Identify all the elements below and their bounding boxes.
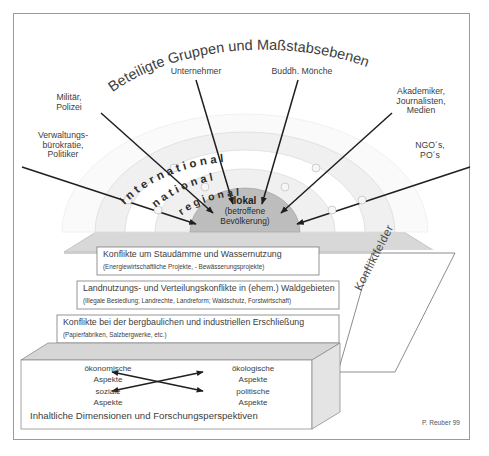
center-label-lokal: lokal	[205, 195, 285, 206]
actor-label-militaer: Militär, Polizei	[38, 93, 100, 112]
conflict-field-boxes	[57, 247, 339, 343]
conflict-field-subtitle-2: (Illegale Besiedlung; Landrechte, Landre…	[83, 297, 339, 304]
dimension-label-politische-line2: Aspekte	[203, 399, 303, 408]
dimension-label-oekologische-line1: ökologische	[203, 365, 303, 374]
conflict-field-title-3: Konflikte bei der bergbaulichen und indu…	[63, 318, 337, 328]
center-sublabel-line2: Bevölkerung)	[195, 217, 295, 226]
dimension-label-oekologische-line2: Aspekte	[203, 376, 303, 385]
dimension-label-politische-line1: politische	[203, 388, 303, 397]
actor-label-ngo: NGO´s, PO´s	[399, 141, 461, 160]
dimension-label-oekonomische-line2: Aspekte	[58, 376, 158, 385]
figure-caption: Inhaltliche Dimensionen und Forschungspe…	[30, 411, 310, 422]
conflict-field-subtitle-3: (Papierfabriken, Salzbergwerke, etc.)	[63, 331, 337, 338]
actor-label-moenche: Buddh. Mönche	[252, 67, 352, 77]
dimension-label-soziale-line1: soziale	[58, 388, 158, 397]
figure-signature: P. Reuber 99	[380, 419, 460, 426]
dimension-label-soziale-line2: Aspekte	[58, 399, 158, 408]
actor-label-akademiker: Akademiker, Journalisten, Medien	[378, 87, 464, 116]
diagram-stage: Beteiligte Gruppen und Maßstabsebenen Ve…	[0, 0, 489, 456]
conflict-field-subtitle-1: (Energiewirtschaftliche Projekte, - Bewä…	[103, 263, 319, 270]
conflict-field-title-1: Konflikte um Staudämme und Wassernutzung	[103, 250, 315, 260]
dimension-label-oekonomische-line1: ökonomische	[58, 365, 158, 374]
actor-label-verwaltung: Verwaltungs- bürokratie, Politiker	[18, 131, 108, 160]
actor-label-unternehmer: Unternehmer	[146, 67, 246, 77]
conflict-field-title-2: Landnutzungs- und Verteilungskonflikte i…	[83, 284, 339, 294]
center-sublabel-line1: (betroffene	[195, 207, 295, 216]
